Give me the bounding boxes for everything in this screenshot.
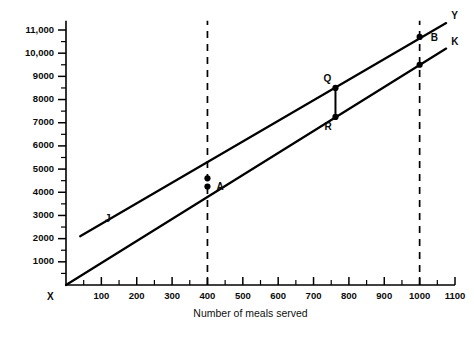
y-tick-label-2000: 2000 (33, 232, 54, 243)
chart-background (0, 0, 474, 337)
line-chart: 10002000300040005000600070008000900010,0… (0, 0, 474, 337)
x-tick-label-600: 600 (270, 290, 286, 301)
x-tick-label-1100: 1100 (445, 290, 466, 301)
x-tick-label-800: 800 (341, 290, 357, 301)
marker-R (332, 114, 338, 120)
point-label-Q: Q (323, 73, 331, 84)
series-end-label-K: K (451, 36, 459, 47)
point-label-R: R (324, 121, 332, 132)
x-tick-label-300: 300 (164, 290, 180, 301)
x-tick-label-400: 400 (200, 290, 216, 301)
x-axis-title: Number of meals served (193, 307, 308, 319)
marker-A2 (204, 183, 210, 189)
origin-label-x: X (47, 291, 54, 302)
y-tick-label-1000: 1000 (33, 255, 54, 266)
y-tick-label-10000: 10,000 (25, 47, 54, 58)
y-tick-label-3000: 3000 (33, 209, 54, 220)
chart-container: 10002000300040005000600070008000900010,0… (0, 0, 474, 337)
y-tick-label-9000: 9000 (33, 70, 54, 81)
x-tick-label-200: 200 (129, 290, 145, 301)
marker-A (204, 175, 210, 181)
point-label-A: A (216, 181, 223, 192)
marker-K1000 (417, 62, 423, 68)
point-label-B: B (431, 32, 438, 43)
series-end-label-Y: Y (451, 10, 458, 21)
y-tick-label-7000: 7000 (33, 116, 54, 127)
y-tick-label-8000: 8000 (33, 93, 54, 104)
y-tick-label-5000: 5000 (33, 163, 54, 174)
marker-B (417, 34, 423, 40)
marker-Q (332, 85, 338, 91)
point-label-J: J (105, 213, 111, 224)
x-tick-label-1000: 1000 (409, 290, 430, 301)
x-tick-label-900: 900 (376, 290, 392, 301)
x-tick-label-500: 500 (235, 290, 251, 301)
y-tick-label-6000: 6000 (33, 139, 54, 150)
x-tick-label-700: 700 (306, 290, 322, 301)
x-tick-label-100: 100 (93, 290, 109, 301)
y-tick-label-11000: 11,000 (25, 24, 54, 35)
y-tick-label-4000: 4000 (33, 186, 54, 197)
